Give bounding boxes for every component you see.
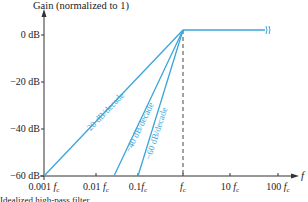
y-axis-title: Gain (normalized to 1): [33, 1, 129, 12]
figure-caption-partial: Idealized high-pass filter: [0, 196, 89, 202]
axis-break-icon: [266, 26, 270, 34]
x-label-fc: fc: [158, 182, 208, 194]
x-label-10fc: 10 fc: [205, 182, 255, 194]
bode-plot: [0, 0, 308, 202]
y-label-0db: 0 dB: [0, 30, 40, 40]
x-axis-symbol: f: [301, 170, 304, 181]
y-label-60db: −60 dB: [0, 171, 40, 181]
x-label-100fc: 100 fc: [253, 182, 303, 194]
x-label-0.1fc: 0.1fc: [113, 182, 163, 194]
y-label-40db: −40 dB: [0, 124, 40, 134]
y-label-20db: −20 dB: [0, 77, 40, 87]
x-axis-arrow-icon: [291, 174, 299, 179]
x-label-0.001fc: 0.001 fc: [19, 182, 69, 194]
